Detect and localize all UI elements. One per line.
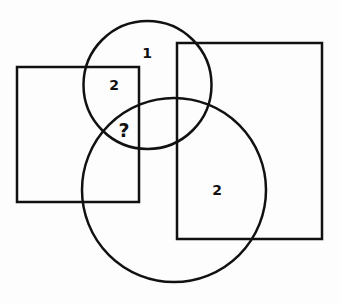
label-left-rect-top-circle: 2 [109, 77, 119, 93]
label-unknown-region: ? [118, 119, 129, 141]
label-top-circle-only: 1 [142, 45, 152, 61]
right-rectangle [177, 43, 322, 239]
diagram-canvas: 1 2 ? 2 [0, 0, 340, 305]
venn-diagram: 1 2 ? 2 [0, 0, 340, 305]
label-right-rect-big-circle: 2 [212, 182, 222, 198]
big-circle [82, 98, 266, 282]
top-circle [84, 21, 212, 149]
